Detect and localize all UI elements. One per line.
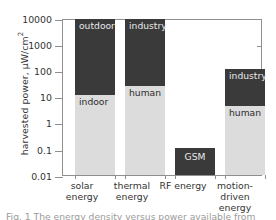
- x-category-motion-driven-energy: motion- driven energy: [206, 180, 264, 213]
- bar-segment-thermal-industry[interactable]: industry: [125, 19, 165, 86]
- bar-thermal-energy[interactable]: human industry: [125, 19, 165, 176]
- bar-label-thermal-human: human: [129, 88, 161, 98]
- x-tick-5: [215, 175, 216, 179]
- x-category-thermal-energy-line2: energy: [104, 191, 160, 202]
- y-tick-label-1000: 1000: [28, 40, 52, 51]
- y-tick-label-10: 10: [40, 92, 52, 103]
- x-category-rf-energy-line1: RF energy: [152, 180, 214, 191]
- bar-segment-thermal-human[interactable]: human: [125, 86, 165, 175]
- bar-segment-rf-gsm[interactable]: GSM: [175, 148, 215, 175]
- plot-area: 10000 1000 100 10 1 0.1 0.01 indoor: [62, 19, 262, 176]
- y-tick-1000: 1000: [55, 46, 63, 47]
- x-category-rf-energy: RF energy: [152, 180, 214, 191]
- bar-label-indoor: indoor: [79, 97, 108, 107]
- y-axis-title-text: harvested power,: [19, 69, 30, 155]
- x-tick-1: [115, 175, 116, 179]
- x-tick-2: [125, 175, 126, 179]
- y-axis-title: harvested power, µW/cm2: [19, 14, 30, 174]
- bar-segment-solar-indoor[interactable]: indoor: [75, 95, 115, 175]
- y-tick-0.1: 0.1: [55, 151, 63, 152]
- bar-rf-energy[interactable]: GSM: [175, 148, 215, 175]
- x-tick-4: [175, 175, 176, 179]
- y-tick-label-1: 1: [46, 118, 52, 129]
- figure-caption: Fig. 1 The energy density versus power a…: [6, 211, 270, 220]
- bar-label-thermal-industry: industry: [129, 21, 167, 31]
- x-category-motion-driven-energy-line1: motion-: [206, 180, 264, 191]
- x-category-solar-energy-line2: energy: [54, 191, 110, 202]
- x-tick-6: [225, 175, 226, 179]
- y-tick-label-100: 100: [34, 66, 52, 77]
- bar-label-motion-industry: industry: [229, 71, 267, 81]
- y-tick-100: 100: [55, 72, 63, 73]
- figure-container: harvested power, µW/cm2 10000 1000 100 1…: [0, 0, 276, 220]
- y-tick-label-10000: 10000: [22, 14, 52, 25]
- bar-segment-solar-outdoor[interactable]: outdoor: [75, 19, 115, 96]
- y-tick-label-0.01: 0.01: [31, 171, 52, 182]
- y-tick-0.01: 0.01: [55, 177, 63, 178]
- x-category-solar-energy: solar energy: [54, 180, 110, 202]
- bar-motion-driven-energy[interactable]: human industry: [225, 69, 265, 175]
- y-tick-right-1000: [257, 46, 261, 47]
- y-axis-title-exponent: 2: [17, 32, 25, 37]
- bar-segment-motion-industry[interactable]: industry: [225, 69, 265, 106]
- bar-segment-motion-human[interactable]: human: [225, 106, 265, 175]
- y-tick-label-0.1: 0.1: [37, 145, 52, 156]
- x-tick-7: [265, 175, 266, 179]
- bar-label-gsm: GSM: [175, 152, 215, 162]
- x-category-motion-driven-energy-line2: driven: [206, 191, 264, 202]
- bar-label-outdoor: outdoor: [79, 21, 115, 31]
- y-tick-10: 10: [55, 98, 63, 99]
- x-tick-0: [75, 175, 76, 179]
- y-tick-1: 1: [55, 124, 63, 125]
- bar-solar-energy[interactable]: indoor outdoor: [75, 19, 115, 176]
- y-tick-10000: 10000: [55, 20, 63, 21]
- x-tick-3: [165, 175, 166, 179]
- bar-label-motion-human: human: [229, 108, 261, 118]
- x-category-solar-energy-line1: solar: [54, 180, 110, 191]
